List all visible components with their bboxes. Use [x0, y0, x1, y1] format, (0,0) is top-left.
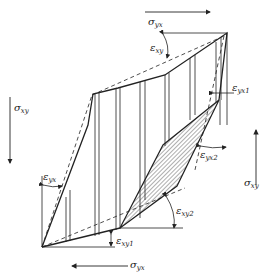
eps-yx-arc — [43, 185, 62, 187]
sigma-yx-bottom-label: σyx — [130, 260, 145, 272]
eps-yx2-label: εyx2 — [200, 150, 218, 162]
eps-yx-label: εyx — [43, 172, 56, 184]
eps-yx1-label: εyx1 — [232, 83, 250, 95]
sigma-xy-left-label: σxy — [14, 103, 29, 115]
sigma-yx-top-label: σyx — [148, 17, 163, 29]
sigma-xy-right-label: σxy — [244, 178, 259, 190]
eps-xy2-arc — [166, 196, 174, 228]
eps-xy2-label: εxy2 — [176, 206, 194, 218]
eps-xy1-label: εxy1 — [116, 236, 134, 248]
eps-xy-label: εxy — [150, 43, 163, 55]
eps-yx2-arc — [200, 146, 226, 148]
hatched-region — [120, 100, 219, 228]
eps-xy-arc — [163, 34, 168, 58]
